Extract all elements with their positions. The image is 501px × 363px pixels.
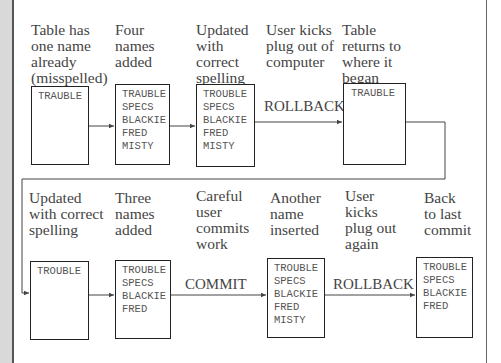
table-row-name: MISTY bbox=[274, 314, 324, 327]
table-state-box: TROUBLE bbox=[30, 261, 89, 340]
table-row-name: TROUBLE bbox=[122, 264, 170, 277]
table-state-box: TRAUBLE bbox=[343, 83, 406, 165]
table-row-name: SPECS bbox=[203, 101, 254, 114]
table-row-name: MISTY bbox=[122, 140, 169, 153]
table-row-name: FRED bbox=[122, 303, 170, 316]
table-row-name: BLACKIE bbox=[423, 287, 472, 300]
table-row-name: TROUBLE bbox=[37, 265, 88, 278]
table-row-name: TRAUBLE bbox=[351, 87, 405, 100]
step-label: Updated with correct spelling bbox=[29, 190, 103, 238]
table-row-name: BLACKIE bbox=[122, 290, 170, 303]
step-label: Table has one name already (misspelled) bbox=[31, 22, 108, 86]
step-label: Updated with correct spelling bbox=[196, 22, 249, 86]
table-row-name: SPECS bbox=[122, 101, 169, 114]
step-label: Another name inserted bbox=[270, 190, 321, 238]
commit-operation-label: COMMIT bbox=[185, 276, 247, 293]
step-label: User kicks plug out of computer bbox=[266, 22, 334, 70]
table-state-box: TROUBLE SPECS BLACKIE FRED bbox=[416, 257, 473, 338]
table-row-name: TROUBLE bbox=[274, 262, 324, 275]
table-row-name: FRED bbox=[423, 300, 472, 313]
step-label: Four names added bbox=[115, 22, 155, 70]
table-row-name: BLACKIE bbox=[274, 288, 324, 301]
table-row-name: BLACKIE bbox=[122, 114, 169, 127]
rollback-operation-label: ROLLBACK bbox=[264, 98, 345, 115]
table-row-name: SPECS bbox=[274, 275, 324, 288]
table-row-name: FRED bbox=[122, 127, 169, 140]
table-row-name: TRAUBLE bbox=[122, 88, 169, 101]
table-row-name: SPECS bbox=[122, 277, 170, 290]
table-state-box: TROUBLE SPECS BLACKIE FRED MISTY bbox=[196, 84, 255, 167]
step-label: Careful user commits work bbox=[196, 188, 249, 252]
step-label: Three names added bbox=[115, 190, 155, 238]
step-label: Back to last commit bbox=[424, 190, 471, 238]
table-state-box: TROUBLE SPECS BLACKIE FRED MISTY bbox=[267, 258, 325, 338]
table-row-name: FRED bbox=[274, 301, 324, 314]
table-row-name: MISTY bbox=[203, 140, 254, 153]
table-state-box: TROUBLE SPECS BLACKIE FRED bbox=[115, 260, 171, 339]
table-row-name: FRED bbox=[203, 127, 254, 140]
table-row-name: TRAUBLE bbox=[38, 90, 88, 103]
table-row-name: BLACKIE bbox=[203, 114, 254, 127]
rollback-operation-label: ROLLBACK bbox=[333, 276, 414, 293]
table-state-box: TRAUBLE SPECS BLACKIE FRED MISTY bbox=[115, 84, 170, 165]
step-label: Table returns to where it began bbox=[342, 22, 401, 86]
step-label: User kicks plug out again bbox=[345, 188, 396, 252]
table-row-name: TROUBLE bbox=[423, 261, 472, 274]
table-state-box: TRAUBLE bbox=[31, 86, 89, 165]
table-row-name: TROUBLE bbox=[203, 88, 254, 101]
table-row-name: SPECS bbox=[423, 274, 472, 287]
